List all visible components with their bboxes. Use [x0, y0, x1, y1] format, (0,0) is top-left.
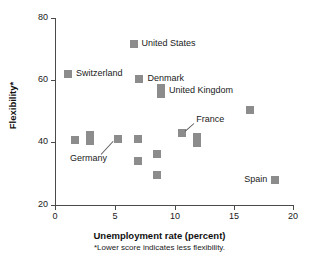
- data-point-5: [86, 131, 94, 145]
- x-tick-20: [293, 206, 294, 210]
- x-tick-label-20: 20: [283, 211, 303, 221]
- data-point-8: [134, 157, 142, 165]
- data-point-switzerland: [64, 70, 72, 78]
- data-point-spain: [271, 176, 279, 184]
- x-tick-label-15: 15: [224, 211, 244, 221]
- data-point-united-states: [130, 40, 138, 48]
- point-label-united-kingdom: United Kingdom: [169, 85, 233, 95]
- x-tick-0: [55, 206, 56, 210]
- y-tick-label-80: 80: [26, 12, 48, 22]
- x-tick-15: [234, 206, 235, 210]
- y-tick-80: [51, 18, 55, 19]
- data-point-4: [71, 136, 79, 144]
- data-point-united-kingdom: [157, 84, 165, 98]
- x-axis-footnote: *Lower score indicates less flexibility.: [0, 243, 319, 252]
- y-axis-title: Flexibility*: [7, 70, 18, 142]
- y-tick-label-60: 60: [26, 74, 48, 84]
- y-tick-60: [51, 80, 55, 81]
- x-tick-label-10: 10: [165, 211, 185, 221]
- point-label-denmark: Denmark: [147, 73, 184, 83]
- data-point-9: [153, 150, 161, 158]
- data-point-10: [153, 171, 161, 179]
- data-point-13: [246, 106, 254, 114]
- y-tick-label-40: 40: [26, 136, 48, 146]
- point-label-spain: Spain: [244, 174, 267, 184]
- scatter-chart: 80 60 40 20 0 5 10 15 20 Flexibility* Un…: [0, 0, 319, 260]
- x-tick-label-0: 0: [45, 211, 65, 221]
- data-point-12: [193, 133, 201, 147]
- y-axis-line: [55, 18, 56, 206]
- x-tick-5: [115, 206, 116, 210]
- x-axis-title: Unemployment rate (percent): [0, 230, 319, 241]
- y-tick-label-20: 20: [26, 199, 48, 209]
- x-tick-label-5: 5: [105, 211, 125, 221]
- data-point-denmark: [135, 75, 143, 83]
- data-point-germany: [114, 135, 122, 143]
- leader-line-france: [185, 123, 195, 132]
- data-point-7: [134, 135, 142, 143]
- point-label-france: France: [196, 114, 224, 124]
- x-tick-10: [175, 206, 176, 210]
- point-label-united-states: United States: [142, 38, 196, 48]
- y-tick-40: [51, 142, 55, 143]
- point-label-switzerland: Switzerland: [76, 68, 123, 78]
